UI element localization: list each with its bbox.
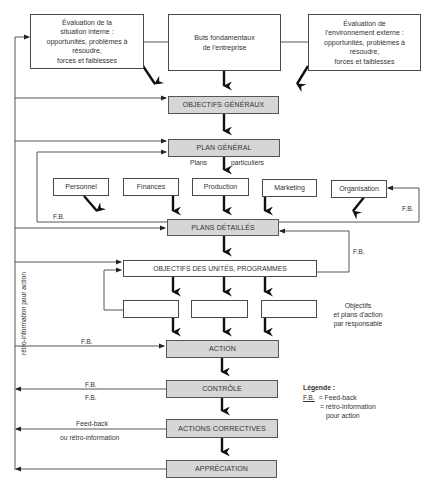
internal-eval-line-4: résoudre, [72,46,102,56]
actions-correctives-box: ACTIONS CORRECTIVES [166,419,278,438]
external-eval-line-5: forces et faiblesses [335,57,395,67]
legend-line-3: pour action [303,411,376,420]
legend-abbr: F.B. [303,393,315,402]
external-eval-line-4: résoudre, [350,47,380,57]
function-production-box: Production [192,178,249,196]
internal-eval-line-1: Évaluation de la [62,18,112,28]
plan-general-box: PLAN GÉNÉRAL [168,139,280,157]
planning-control-diagram: Évaluation de la situation interne : opp… [0,0,434,494]
responsible-note-line-3: par responsable [322,319,394,328]
external-evaluation-box: Évaluation de l'environnement externe : … [308,14,421,71]
fundamental-goals-box: Buts fondamentaux de l'entreprise [168,14,281,71]
ou-retro-information-label: ou rétro-information [60,433,119,442]
external-eval-line-1: Évaluation de [343,19,385,29]
external-eval-line-3: opportunités, problèmes à [324,38,405,48]
fb-label-left-loop: F.B. [53,212,65,221]
legend-line-1: = Feed-back [319,393,357,402]
responsible-box-1 [123,300,179,318]
fb-label-action: F.B. [81,337,93,346]
feed-back-label: Feed-back [76,419,108,428]
responsible-note: Objectifs et plans d'action par responsa… [322,301,394,328]
responsible-box-3 [261,300,317,318]
function-organisation-box: Organisation [331,180,387,198]
legend-title: Légende : [303,383,376,392]
fb-label-organisation-loop: F.B. [402,204,414,213]
particuliers-label: particuliers [231,158,264,167]
function-marketing-box: Marketing [262,179,317,197]
responsible-box-2 [191,300,248,318]
fb-label-controle-2: F.B. [85,393,97,402]
objectifs-unites-box: OBJECTIFS DES UNITÉS, PROGRAMMES [123,260,317,277]
goals-line-1: Buts fondamentaux [194,33,254,43]
legend-line-2: = rétro-information [303,402,376,411]
fb-label-controle-1: F.B. [85,380,97,389]
controle-box: CONTRÔLE [166,380,278,398]
external-eval-line-2: l'environnement externe : [325,28,403,38]
responsible-note-line-2: et plans d'action [322,310,394,319]
internal-eval-line-2: situation interne : [60,27,113,37]
internal-eval-line-3: opportunités, problèmes à [47,37,128,47]
plans-label: Plans [190,158,207,167]
legend: Légende : F.B. = Feed-back = rétro-infor… [303,383,376,420]
vertical-retro-information-label: rétro-information pour action [20,272,27,355]
plans-detailles-box: PLANS DÉTAILLÉS [167,219,279,236]
objectifs-generaux-box: OBJECTIFS GÉNÉRAUX [168,96,279,114]
fb-label-units-loop: F.B. [353,247,365,256]
action-box: ACTION [166,340,279,358]
internal-eval-line-5: forces et faiblesses [57,56,117,66]
responsible-note-line-1: Objectifs [322,301,394,310]
internal-evaluation-box: Évaluation de la situation interne : opp… [30,14,144,69]
appreciation-box: APPRÉCIATION [166,460,277,478]
function-personnel-box: Personnel [53,178,109,196]
function-finances-box: Finances [123,178,179,196]
goals-line-2: de l'entreprise [203,43,247,53]
